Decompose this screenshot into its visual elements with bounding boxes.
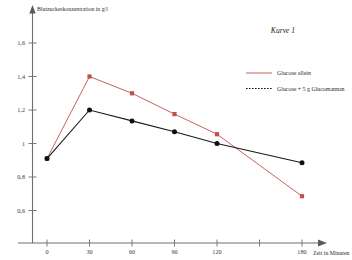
data-point-marker xyxy=(87,108,92,113)
data-point-marker xyxy=(45,156,50,161)
x-tick-label: 180 xyxy=(297,248,306,255)
x-tick-label: 90 xyxy=(171,248,177,255)
legend-label: Glucose + 5 g Glucomannan xyxy=(277,86,345,92)
y-tick-group: 1,6 1,4 1,2 1 0,8 0,6 xyxy=(17,39,36,214)
chart-figure: 1,6 1,4 1,2 1 0,8 0,6 0 30 60 90 120 xyxy=(0,0,352,260)
chart-canvas: 1,6 1,4 1,2 1 0,8 0,6 0 30 60 90 120 xyxy=(0,0,352,260)
y-axis-caption: Blutzuckerkonzentration in g/l xyxy=(37,6,108,12)
x-tick-label: 30 xyxy=(86,248,92,255)
chart-legend: Glucose allein Glucose + 5 g Glucomannan xyxy=(246,70,345,92)
x-axis-caption: Zeit in Minuten xyxy=(313,250,349,256)
series-glucose-allein xyxy=(45,74,304,198)
y-tick-label: 1,4 xyxy=(17,73,25,80)
series-line-black xyxy=(47,110,302,163)
legend-label: Glucose allein xyxy=(277,70,311,76)
data-point-marker xyxy=(215,132,219,136)
data-point-marker xyxy=(300,160,305,165)
y-tick-label: 1,2 xyxy=(17,106,25,113)
chart-title: Kurve 1 xyxy=(270,26,295,35)
data-point-marker xyxy=(130,91,134,95)
legend-item-glucose-glucomannan: Glucose + 5 g Glucomannan xyxy=(246,86,345,92)
y-tick-label: 1 xyxy=(22,140,25,147)
y-tick-label: 0,6 xyxy=(17,207,25,214)
x-tick-label: 0 xyxy=(45,248,48,255)
x-axis-arrow-icon xyxy=(318,240,327,247)
x-tick-label: 120 xyxy=(212,248,221,255)
y-tick-label: 1,6 xyxy=(17,39,25,46)
y-tick-label: 0,8 xyxy=(17,173,25,180)
data-point-marker xyxy=(172,112,176,116)
data-point-marker xyxy=(87,74,91,78)
data-point-marker xyxy=(130,118,135,123)
legend-item-glucose-allein: Glucose allein xyxy=(246,70,311,76)
data-point-marker xyxy=(215,141,220,146)
data-point-marker xyxy=(300,194,304,198)
data-point-marker xyxy=(172,129,177,134)
x-tick-group: 0 30 60 90 120 180 xyxy=(45,240,306,256)
x-tick-label: 60 xyxy=(129,248,135,255)
y-axis-arrow-icon xyxy=(29,5,35,14)
series-line-red xyxy=(47,77,302,197)
